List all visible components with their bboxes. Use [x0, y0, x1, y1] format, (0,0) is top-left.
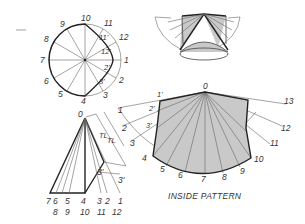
- pattern-label-2-prime: 2': [148, 104, 155, 113]
- label-11: 11: [104, 18, 113, 28]
- pattern-label-9: 9: [240, 166, 245, 176]
- pattern-label-3: 3: [130, 138, 135, 148]
- label-3-prime-inner: 3': [97, 167, 104, 177]
- base-label-1: 1: [118, 196, 123, 206]
- label-2: 2: [118, 75, 124, 85]
- base-label-5: 5: [65, 196, 70, 206]
- pattern-label-1-prime: 1': [157, 90, 163, 99]
- label-5: 5: [58, 89, 63, 99]
- base-label-2: 2: [104, 196, 110, 206]
- base-label-12: 12: [112, 207, 122, 217]
- label-12: 12: [119, 32, 129, 42]
- label-10: 10: [81, 13, 91, 23]
- caption-inside-pattern: INSIDE PATTERN: [168, 191, 242, 201]
- pattern-label-8: 8: [222, 172, 227, 182]
- pattern-label-6: 6: [178, 170, 183, 180]
- technical-drawing: 10 11 12 1 2 3 4 5 6 7 8 9 11' 12' 2' 3': [0, 0, 305, 224]
- pattern-label-10: 10: [254, 154, 264, 164]
- pattern-label-12: 12: [281, 123, 291, 133]
- label-9: 9: [60, 19, 65, 29]
- label-3: 3: [103, 90, 108, 100]
- label-2-prime: 2': [103, 63, 110, 72]
- front-view: 0 TL TL 3' 3' 7 6 5 4 3 2 1 8 9 10 11 12: [46, 109, 126, 217]
- pattern-label-3-prime: 3': [146, 121, 152, 130]
- base-label-11: 11: [97, 207, 106, 217]
- pattern-label-11: 11: [270, 138, 279, 148]
- pattern-label-4: 4: [142, 153, 147, 163]
- tl-label-2: TL: [107, 136, 116, 145]
- pattern-label-5: 5: [160, 164, 165, 174]
- label-11-prime: 11': [99, 33, 109, 42]
- top-view: 10 11 12 1 2 3 4 5 6 7 8 9 11' 12' 2' 3': [16, 13, 129, 106]
- pattern-label-7: 7: [201, 174, 206, 184]
- label-3-prime-outer: 3': [118, 175, 125, 185]
- pattern-label-1: 1: [118, 105, 123, 115]
- label-7: 7: [40, 55, 45, 65]
- pattern-label-13: 13: [284, 96, 294, 106]
- apex-label-0: 0: [78, 109, 83, 119]
- label-3-prime: 3': [99, 77, 105, 86]
- label-8: 8: [44, 34, 49, 44]
- pattern-label-2: 2: [121, 123, 127, 133]
- label-1: 1: [124, 55, 129, 65]
- base-label-10: 10: [80, 207, 90, 217]
- base-label-6: 6: [53, 196, 58, 206]
- pattern-apex-0: 0: [203, 81, 208, 91]
- base-label-7: 7: [46, 196, 51, 206]
- label-12-prime: 12': [101, 47, 111, 56]
- base-label-8: 8: [53, 207, 58, 217]
- base-label-9: 9: [65, 207, 70, 217]
- base-label-4: 4: [81, 196, 86, 206]
- label-6: 6: [44, 76, 49, 86]
- inside-pattern: 0 1 2 3 4 5 6 7 8 9 10 11 12 13 1' 2' 3'…: [118, 81, 294, 201]
- base-label-3: 3: [97, 196, 102, 206]
- pictorial-view: [155, 14, 240, 60]
- label-4: 4: [81, 96, 86, 106]
